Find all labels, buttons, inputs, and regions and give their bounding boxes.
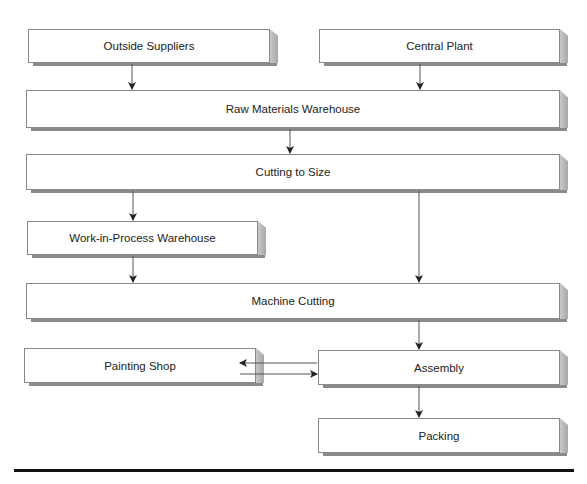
bottom-rule xyxy=(14,469,574,472)
arrows-layer xyxy=(0,0,587,484)
